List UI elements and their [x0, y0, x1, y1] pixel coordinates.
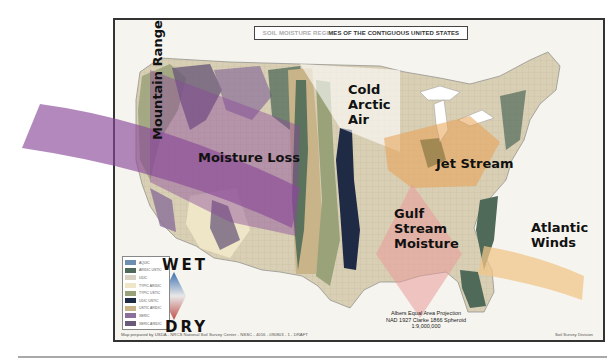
legend-swatch	[125, 321, 136, 326]
legend-label: AQUIC	[139, 261, 150, 265]
projection-info: Albers Equal Area Projection NAD 1927 Cl…	[381, 310, 471, 330]
legend-swatch	[125, 260, 136, 265]
wet-label: WET	[162, 256, 208, 274]
legend-swatch	[125, 268, 136, 273]
legend-swatch	[125, 313, 136, 318]
legend-label: UDIC	[139, 276, 147, 280]
legend-label: XERIC	[139, 314, 149, 318]
legend-label: XERIC ARIDIC	[139, 322, 162, 326]
legend-label: UDIC USTIC	[139, 299, 158, 303]
label-mountain-range: Mountain Range	[150, 20, 165, 140]
label-cold-arctic-air: Cold Arctic Air	[348, 82, 391, 127]
legend-label: USTIC ARIDIC	[139, 306, 161, 310]
legend-item: AQUIC	[125, 259, 167, 267]
legend-item: XERIC	[125, 312, 167, 320]
label-jet-stream: Jet Stream	[436, 156, 514, 171]
legend-swatch	[125, 298, 136, 303]
legend-swatch	[125, 291, 136, 296]
legend-swatch	[125, 275, 136, 280]
label-atlantic-winds: Atlantic Winds	[531, 220, 588, 250]
legend-swatch	[125, 306, 136, 311]
map-title: SOIL MOISTURE REGIMES OF THE CONTIGUOUS …	[254, 26, 468, 40]
legend-label: ARIDIC USTIC	[139, 268, 162, 272]
legend-item: USTIC ARIDIC	[125, 305, 167, 313]
legend-item: TYPIC USTIC	[125, 289, 167, 297]
label-moisture-loss: Moisture Loss	[198, 150, 300, 165]
map-credit: Map prepared by USDA - NRCS National Soi…	[121, 332, 308, 337]
label-gulf-stream-moisture: Gulf Stream Moisture	[394, 206, 459, 251]
legend-item: ARIDIC USTIC	[125, 267, 167, 275]
bottom-divider	[18, 356, 607, 358]
soil-survey-division: Soil Survey Division	[555, 332, 593, 337]
legend-item: UDIC	[125, 274, 167, 282]
legend-label: TYPIC ARIDIC	[139, 284, 161, 288]
legend-swatch	[125, 283, 136, 288]
soil-moisture-map-figure: SOIL MOISTURE REGIMES OF THE CONTIGUOUS …	[0, 0, 616, 363]
legend-item: XERIC ARIDIC	[125, 320, 167, 328]
legend-label: TYPIC USTIC	[139, 291, 160, 295]
legend-item: TYPIC ARIDIC	[125, 282, 167, 290]
legend-item: UDIC USTIC	[125, 297, 167, 305]
map-graphic	[0, 0, 616, 363]
